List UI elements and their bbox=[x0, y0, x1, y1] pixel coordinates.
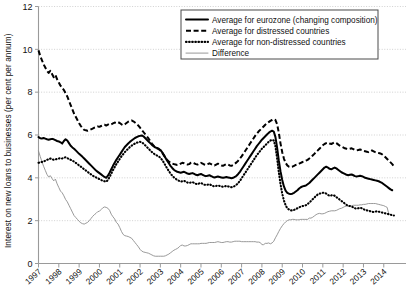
y-axis-title: Interest on new loans to businesses (per… bbox=[4, 33, 13, 248]
x-tick-label: 1999 bbox=[63, 266, 84, 286]
x-tick-label: 2009 bbox=[267, 266, 288, 286]
x-tick-label: 2001 bbox=[104, 266, 125, 286]
chart-container: 024681012 199719981999200020012002200320… bbox=[0, 0, 409, 304]
legend-label: Difference bbox=[212, 49, 250, 58]
legend-label: Average for distressed countries bbox=[212, 27, 329, 36]
y-tick-label: 2 bbox=[27, 216, 32, 226]
series-line-distressed bbox=[39, 50, 394, 167]
x-tick-label: 2003 bbox=[145, 266, 166, 286]
interest-rate-line-chart: 024681012 199719981999200020012002200320… bbox=[0, 0, 409, 304]
legend: Average for eurozone (changing compositi… bbox=[181, 10, 378, 59]
y-tick-label: 6 bbox=[27, 130, 32, 140]
x-tick-label: 2007 bbox=[226, 266, 247, 286]
legend-item[interactable]: Average for eurozone (changing compositi… bbox=[186, 16, 378, 25]
y-tick-label: 12 bbox=[22, 2, 32, 12]
x-tick-label: 2000 bbox=[84, 266, 105, 286]
x-tick-label: 2005 bbox=[185, 266, 206, 286]
plot-series bbox=[39, 50, 394, 256]
legend-label: Average for eurozone (changing compositi… bbox=[212, 16, 378, 25]
x-tick-label: 2011 bbox=[308, 266, 328, 286]
y-tick-label: 10 bbox=[22, 45, 32, 55]
x-axis: 1997199819992000200120022003200420052006… bbox=[23, 264, 406, 287]
x-tick-label: 2004 bbox=[165, 266, 186, 286]
y-tick-label: 0 bbox=[27, 259, 32, 269]
y-axis: 024681012 bbox=[22, 2, 38, 269]
series-line-eurozone bbox=[39, 131, 393, 194]
y-axis-label: Interest on new loans to businesses (per… bbox=[4, 33, 13, 248]
legend-label: Average for non-distressed countries bbox=[212, 38, 346, 47]
x-tick-label: 2006 bbox=[206, 266, 227, 286]
x-tick-label: 2013 bbox=[348, 266, 369, 286]
x-tick-label: 1998 bbox=[43, 266, 64, 286]
y-tick-label: 8 bbox=[27, 87, 32, 97]
y-tick-label: 4 bbox=[27, 173, 32, 183]
x-tick-label: 2012 bbox=[327, 266, 348, 286]
x-tick-label: 2008 bbox=[246, 266, 267, 286]
x-tick-label: 2010 bbox=[287, 266, 308, 286]
x-tick-label: 2002 bbox=[124, 266, 145, 286]
x-tick-label: 1997 bbox=[23, 266, 44, 286]
x-tick-label: 2014 bbox=[368, 266, 389, 286]
